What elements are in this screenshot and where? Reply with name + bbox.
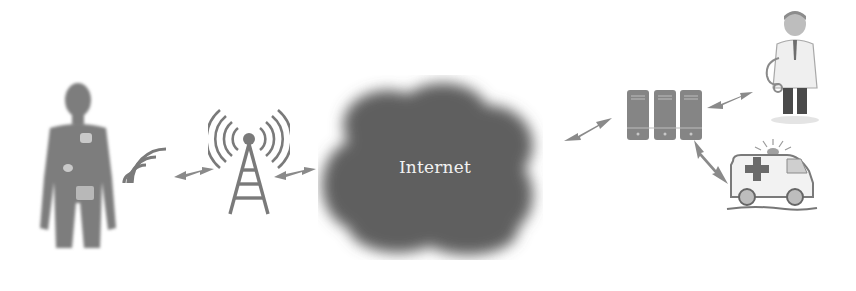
doctor-icon <box>755 10 825 125</box>
bidirectional-wireless-arrow-icon <box>705 88 755 112</box>
bidirectional-wireless-arrow-icon <box>562 115 614 143</box>
abdominal-sensor-icon <box>63 164 73 172</box>
server-rack-icon <box>625 88 705 143</box>
ambulance-icon <box>725 135 825 213</box>
internet-label: Internet <box>385 157 485 177</box>
wireless-signal-icon <box>118 135 168 185</box>
patient-with-body-sensors-icon <box>28 78 124 268</box>
chest-sensor-icon <box>80 133 92 143</box>
wearable-monitor-icon <box>76 186 94 200</box>
cell-tower-icon <box>208 108 290 218</box>
